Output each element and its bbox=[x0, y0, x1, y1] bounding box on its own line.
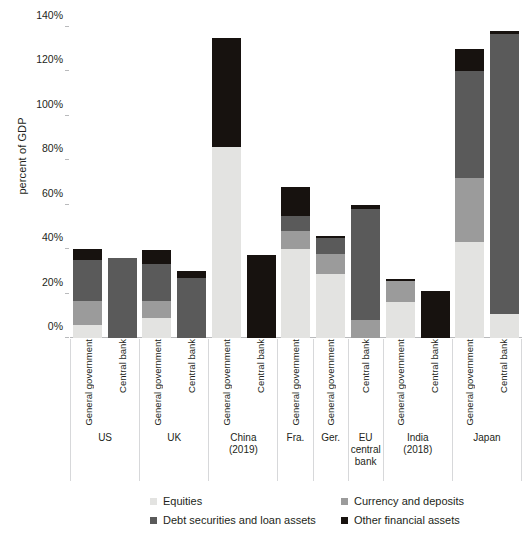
plot-area: 0%20%40%60%80%100%120%140% bbox=[70, 27, 522, 338]
stacked-bar[interactable] bbox=[142, 250, 171, 338]
x-axis-sublabel: Central bank bbox=[108, 339, 137, 397]
bar-segment-currency-deposits[interactable] bbox=[281, 231, 310, 249]
bar-segment-equities[interactable] bbox=[142, 318, 171, 338]
bar-segment-currency-deposits[interactable] bbox=[351, 320, 380, 338]
y-axis-tick-label: 120% bbox=[36, 53, 63, 65]
y-axis-tick-mark bbox=[65, 248, 69, 249]
x-axis-group-label: EUcentralbank bbox=[351, 432, 381, 468]
legend-item[interactable]: Currency and deposits bbox=[341, 495, 532, 507]
bar-segment-equities[interactable] bbox=[386, 302, 415, 338]
y-axis-tick-label: 40% bbox=[42, 231, 63, 243]
x-axis-group-label: US bbox=[98, 432, 112, 444]
x-axis-sublabels: General governmentCentral bank bbox=[384, 339, 452, 426]
bar-segment-equities[interactable] bbox=[316, 274, 345, 338]
y-axis-title: percent of GDP bbox=[16, 96, 28, 216]
stacked-bar[interactable] bbox=[177, 271, 206, 338]
x-axis-sublabel: General government bbox=[143, 339, 172, 430]
stacked-bar[interactable] bbox=[212, 38, 241, 338]
bar-segment-debt-loans[interactable] bbox=[177, 278, 206, 338]
bar-group bbox=[348, 27, 383, 338]
x-axis-group-label-row: UK bbox=[140, 426, 208, 481]
bar-group bbox=[383, 27, 453, 338]
x-axis-sublabel: Central bank bbox=[177, 339, 206, 397]
x-axis-group-label: India(2018) bbox=[403, 432, 432, 456]
y-axis-tick-mark bbox=[65, 26, 69, 27]
x-axis-sublabels: General governmentCentral bank bbox=[71, 339, 139, 426]
x-axis-sublabel: Central bank bbox=[246, 339, 275, 397]
y-axis-tick-mark bbox=[65, 70, 69, 71]
bar-segment-currency-deposits[interactable] bbox=[455, 178, 484, 242]
stacked-bar[interactable] bbox=[247, 255, 276, 338]
bar-segment-currency-deposits[interactable] bbox=[73, 301, 102, 324]
bar-segment-other-financial[interactable] bbox=[73, 249, 102, 260]
x-axis-sublabels: General governmentCentral bank bbox=[209, 339, 277, 426]
y-axis-tick-mark bbox=[65, 159, 69, 160]
stacked-bar[interactable] bbox=[73, 249, 102, 338]
bar-segment-currency-deposits[interactable] bbox=[386, 281, 415, 302]
y-axis-tick-label: 0% bbox=[48, 320, 63, 332]
x-axis-sublabel: General government bbox=[74, 339, 103, 430]
bar-segment-equities[interactable] bbox=[281, 249, 310, 338]
bar-segment-equities[interactable] bbox=[455, 242, 484, 338]
bar-group bbox=[209, 27, 279, 338]
bar-segment-other-financial[interactable] bbox=[142, 250, 171, 263]
y-axis-tick-label: 20% bbox=[42, 276, 63, 288]
x-axis-sublabel: General government bbox=[212, 339, 241, 430]
bar-segment-other-financial[interactable] bbox=[455, 49, 484, 71]
x-axis-group-label-row: Fra. bbox=[278, 426, 312, 481]
bar-group bbox=[313, 27, 348, 338]
chart-legend: EquitiesCurrency and depositsDebt securi… bbox=[0, 495, 532, 526]
bar-segment-debt-loans[interactable] bbox=[73, 260, 102, 301]
legend-label: Equities bbox=[163, 495, 202, 507]
x-axis-sublabel: Central bank bbox=[351, 339, 380, 397]
bar-segment-other-financial[interactable] bbox=[177, 271, 206, 278]
bar-segment-debt-loans[interactable] bbox=[281, 216, 310, 232]
x-axis-group: General governmentCentral bankUS bbox=[70, 339, 139, 481]
bar-segment-equities[interactable] bbox=[212, 147, 241, 338]
bar-segment-other-financial[interactable] bbox=[281, 187, 310, 216]
x-axis-group: General governmentCentral bankIndia(2018… bbox=[383, 339, 452, 481]
bar-segment-other-financial[interactable] bbox=[421, 291, 450, 338]
x-axis-group-label: China(2019) bbox=[229, 432, 258, 456]
bar-segment-debt-loans[interactable] bbox=[455, 71, 484, 178]
bar-segment-debt-loans[interactable] bbox=[108, 258, 137, 338]
stacked-bar[interactable] bbox=[281, 187, 310, 338]
stacked-bar[interactable] bbox=[455, 49, 484, 338]
stacked-bar[interactable] bbox=[421, 291, 450, 338]
legend-swatch-icon bbox=[150, 517, 157, 524]
x-axis-sublabels: General governmentCentral bank bbox=[140, 339, 208, 426]
stacked-bar[interactable] bbox=[316, 236, 345, 338]
x-axis-group: General governmentCentral bankJapan bbox=[452, 339, 522, 481]
stacked-bar[interactable] bbox=[108, 258, 137, 338]
stacked-bar[interactable] bbox=[351, 205, 380, 338]
bar-segment-currency-deposits[interactable] bbox=[316, 254, 345, 274]
x-axis-group-label-row: US bbox=[71, 426, 139, 481]
stacked-bar[interactable] bbox=[386, 279, 415, 338]
x-axis-group-label: Japan bbox=[473, 432, 500, 444]
bar-segment-debt-loans[interactable] bbox=[316, 238, 345, 254]
x-axis-group: General governmentCentral bankUK bbox=[139, 339, 208, 481]
bar-segment-other-financial[interactable] bbox=[212, 38, 241, 147]
x-axis-group: General governmentFra. bbox=[277, 339, 312, 481]
y-axis-tick-label: 100% bbox=[36, 98, 63, 110]
x-axis-sublabel: General government bbox=[281, 339, 310, 430]
x-axis-group-label: UK bbox=[167, 432, 181, 444]
bar-segment-currency-deposits[interactable] bbox=[142, 301, 171, 318]
y-axis-tick-mark bbox=[65, 293, 69, 294]
y-axis-tick-mark bbox=[65, 115, 69, 116]
bar-segment-debt-loans[interactable] bbox=[142, 264, 171, 302]
legend-swatch-icon bbox=[341, 498, 348, 505]
legend-item[interactable]: Equities bbox=[150, 495, 341, 507]
legend-item[interactable]: Other financial assets bbox=[341, 514, 532, 526]
legend-item[interactable]: Debt securities and loan assets bbox=[150, 514, 341, 526]
bar-segment-equities[interactable] bbox=[490, 314, 519, 338]
legend-label: Debt securities and loan assets bbox=[163, 514, 316, 526]
bar-segment-equities[interactable] bbox=[73, 325, 102, 338]
stacked-bar[interactable] bbox=[490, 31, 519, 338]
y-axis-tick-label: 60% bbox=[42, 187, 63, 199]
x-axis-sublabels: General government bbox=[314, 339, 348, 426]
bar-segment-debt-loans[interactable] bbox=[490, 34, 519, 314]
y-axis-tick-mark bbox=[65, 337, 69, 338]
bar-segment-debt-loans[interactable] bbox=[351, 209, 380, 320]
bar-segment-other-financial[interactable] bbox=[247, 255, 276, 338]
